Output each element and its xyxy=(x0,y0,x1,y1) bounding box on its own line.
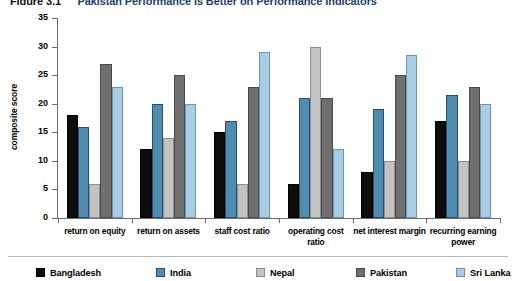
legend-swatch-icon xyxy=(356,268,365,277)
y-tick-label: 10 xyxy=(38,156,48,165)
bar-sri-lanka xyxy=(480,104,491,218)
bar-india xyxy=(152,104,163,218)
bar-group xyxy=(279,18,353,218)
x-tick xyxy=(205,218,206,223)
y-tick-10: 10 xyxy=(52,161,57,162)
y-tick-30: 30 xyxy=(52,47,57,48)
y-tick-label: 15 xyxy=(38,127,48,136)
bar-india xyxy=(299,98,310,218)
figure-number: Figure 3.1 xyxy=(10,0,61,5)
legend-swatch-icon xyxy=(456,268,465,277)
bar-india xyxy=(373,109,384,218)
y-tick-label: 25 xyxy=(38,70,48,79)
legend-swatch-icon xyxy=(156,268,165,277)
legend-item-sri-lanka[interactable]: Sri Lanka xyxy=(456,262,510,276)
bar-sri-lanka xyxy=(185,104,196,218)
bar-sri-lanka xyxy=(259,52,270,218)
bar-bangladesh xyxy=(140,149,151,218)
bar-pakistan xyxy=(321,98,332,218)
x-tick xyxy=(132,218,133,223)
plot-region: 05101520253035 return on equityreturn on… xyxy=(58,18,500,218)
y-tick-25: 25 xyxy=(52,75,57,76)
x-tick xyxy=(353,218,354,223)
bar-bangladesh xyxy=(288,184,299,218)
y-tick-label: 20 xyxy=(38,99,48,108)
legend-label: Bangladesh xyxy=(50,268,101,278)
bar-india xyxy=(225,121,236,218)
x-tick xyxy=(58,218,59,223)
legend-item-bangladesh[interactable]: Bangladesh xyxy=(36,262,101,276)
bar-sri-lanka xyxy=(112,87,123,218)
x-tick xyxy=(426,218,427,223)
bar-pakistan xyxy=(469,87,480,218)
legend-label: India xyxy=(170,268,191,278)
figure-header: Figure 3.1 Pakistan Performance is Bette… xyxy=(0,0,516,5)
bar-sri-lanka xyxy=(406,55,417,218)
bar-pakistan xyxy=(248,87,259,218)
chart-legend: BangladeshIndiaNepalPakistanSri Lanka xyxy=(8,262,512,278)
y-tick-0: 0 xyxy=(52,218,57,219)
bar-group xyxy=(132,18,206,218)
category-label: recurring earning power xyxy=(426,226,500,248)
bar-bangladesh xyxy=(435,121,446,218)
bar-group xyxy=(426,18,500,218)
y-tick-5: 5 xyxy=(52,189,57,190)
y-tick-20: 20 xyxy=(52,104,57,105)
bar-bangladesh xyxy=(214,132,225,218)
legend-label: Pakistan xyxy=(370,268,407,278)
bar-nepal xyxy=(384,161,395,218)
bar-nepal xyxy=(163,138,174,218)
legend-item-nepal[interactable]: Nepal xyxy=(256,262,295,276)
legend-label: Nepal xyxy=(270,268,295,278)
bar-bangladesh xyxy=(361,172,372,218)
bar-bangladesh xyxy=(67,115,78,218)
legend-divider xyxy=(8,256,508,257)
bar-chart: composite score 05101520253035 return on… xyxy=(0,8,516,256)
y-tick-label: 5 xyxy=(43,184,48,193)
bar-nepal xyxy=(89,184,100,218)
bar-pakistan xyxy=(100,64,111,218)
bar-pakistan xyxy=(174,75,185,218)
bar-nepal xyxy=(310,47,321,218)
legend-swatch-icon xyxy=(36,268,45,277)
bar-group xyxy=(205,18,279,218)
bar-nepal xyxy=(458,161,469,218)
bar-group xyxy=(353,18,427,218)
category-label: net interest margin xyxy=(353,226,427,237)
category-label: return on assets xyxy=(132,226,206,237)
x-tick xyxy=(500,218,501,223)
x-tick xyxy=(279,218,280,223)
legend-item-india[interactable]: India xyxy=(156,262,191,276)
y-tick-label: 35 xyxy=(38,13,48,22)
y-tick-15: 15 xyxy=(52,132,57,133)
category-label: return on equity xyxy=(58,226,132,237)
y-tick-label: 0 xyxy=(43,213,48,222)
y-tick-35: 35 xyxy=(52,18,57,19)
legend-swatch-icon xyxy=(256,268,265,277)
bar-india xyxy=(446,95,457,218)
bar-nepal xyxy=(237,184,248,218)
category-label: operating cost ratio xyxy=(279,226,353,248)
y-axis-title: composite score xyxy=(9,57,19,177)
bar-pakistan xyxy=(395,75,406,218)
bar-sri-lanka xyxy=(333,149,344,218)
bar-group xyxy=(58,18,132,218)
legend-label: Sri Lanka xyxy=(470,268,510,278)
figure-title: Pakistan Performance is Better on Perfor… xyxy=(77,0,376,5)
category-label: staff cost ratio xyxy=(205,226,279,237)
legend-item-pakistan[interactable]: Pakistan xyxy=(356,262,407,276)
y-tick-label: 30 xyxy=(38,42,48,51)
bar-india xyxy=(78,127,89,218)
